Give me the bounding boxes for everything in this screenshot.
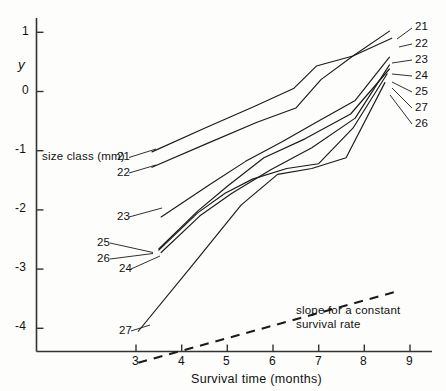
x-tick-label-4: 4 xyxy=(178,355,185,369)
series-line-23 xyxy=(161,57,389,217)
y-tick-label-neg2: -2 xyxy=(15,202,26,216)
x-axis-title: Survival time (months) xyxy=(191,372,322,386)
series-label-right-25: 25 xyxy=(415,85,428,98)
x-tick-label-3: 3 xyxy=(132,355,139,369)
series-line-24 xyxy=(161,65,389,253)
series-label-left-26: 26 xyxy=(97,252,110,265)
x-tick-label-8: 8 xyxy=(360,355,367,369)
x-axis-ticks xyxy=(136,345,410,352)
series-label-left-23: 23 xyxy=(117,210,130,223)
y-tick-label-neg1: -1 xyxy=(15,143,26,157)
x-tick-label-7: 7 xyxy=(315,355,322,369)
y-tick-label-neg4: -4 xyxy=(15,320,26,334)
series-label-left-24: 24 xyxy=(119,262,132,275)
reference-line-note-line2: survival rate xyxy=(296,317,400,331)
series-label-right-26: 26 xyxy=(415,117,428,130)
y-axis-label: y xyxy=(18,57,25,73)
series-label-right-24: 24 xyxy=(415,69,428,82)
x-tick-label-6: 6 xyxy=(269,355,276,369)
series-label-right-21: 21 xyxy=(415,20,428,33)
size-class-caption: size class (mm) xyxy=(42,150,125,163)
y-axis-ticks xyxy=(37,32,44,328)
series-label-left-25: 25 xyxy=(97,236,110,249)
series-line-21 xyxy=(152,31,389,152)
series-label-right-23: 23 xyxy=(415,53,428,66)
series-label-left-22: 22 xyxy=(117,166,130,179)
y-tick-label-1: 1 xyxy=(22,25,29,39)
right-leader-lines xyxy=(390,28,412,124)
reference-line-note: slope for a constant survival rate xyxy=(296,303,400,332)
x-tick-label-5: 5 xyxy=(223,355,230,369)
series-label-left-21: 21 xyxy=(117,150,130,163)
y-tick-label-0: 0 xyxy=(22,84,29,98)
series-line-26 xyxy=(159,74,387,250)
series-label-right-27: 27 xyxy=(415,101,428,114)
chart-canvas xyxy=(0,0,446,391)
y-tick-label-neg3: -3 xyxy=(15,261,26,275)
x-tick-label-9: 9 xyxy=(406,355,413,369)
series-label-right-22: 22 xyxy=(415,37,428,50)
series-label-left-27: 27 xyxy=(119,324,132,337)
data-series-group xyxy=(138,31,391,331)
chart-figure: y 1 0 -1 -2 -3 -4 3 4 5 6 7 8 9 Survival… xyxy=(0,0,446,391)
reference-line-note-line1: slope for a constant xyxy=(296,303,400,317)
